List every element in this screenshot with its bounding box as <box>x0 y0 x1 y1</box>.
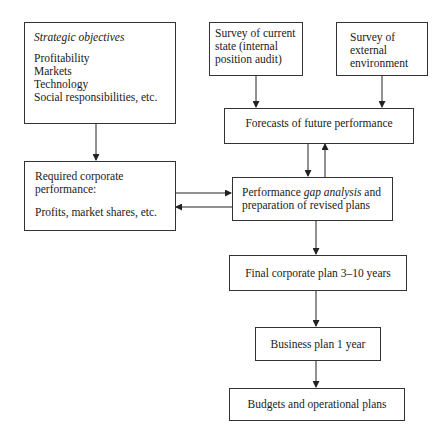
survey-current-state-box: Survey of current state (internal positi… <box>209 22 303 76</box>
objective-item: Technology <box>34 78 166 91</box>
final-plan-label: Final corporate plan 3–10 years <box>245 267 391 280</box>
forecasts-box: Forecasts of future performance <box>224 108 414 144</box>
survey-external-environment-box: Survey of external environment <box>336 22 428 76</box>
strategic-objectives-title: Strategic objectives <box>34 31 166 44</box>
strategic-objectives-box: Strategic objectives Profitability Marke… <box>24 22 176 124</box>
survey-current-line: state (internal <box>215 40 297 53</box>
business-plan-label: Business plan 1 year <box>271 338 366 351</box>
survey-external-line: Survey of <box>350 31 414 44</box>
gap-analysis-box: Performance gap analysis and preparation… <box>232 177 393 221</box>
business-plan-box: Business plan 1 year <box>255 327 381 361</box>
objective-item: Social responsibilities, etc. <box>34 91 166 104</box>
objective-item: Profitability <box>34 52 166 65</box>
forecasts-label: Forecasts of future performance <box>245 117 392 130</box>
budgets-label: Budgets and operational plans <box>248 398 387 411</box>
required-performance-line: performance: <box>35 183 165 196</box>
survey-current-line: position audit) <box>215 53 297 66</box>
budgets-box: Budgets and operational plans <box>229 388 405 421</box>
gap-analysis-line-2: preparation of revised plans <box>242 199 383 212</box>
objective-item: Markets <box>34 65 166 78</box>
required-performance-box: Required corporate performance: Profits,… <box>24 161 176 231</box>
survey-current-line: Survey of current <box>215 27 297 40</box>
required-performance-detail: Profits, market shares, etc. <box>35 206 165 219</box>
required-performance-line: Required corporate <box>35 170 165 183</box>
final-corporate-plan-box: Final corporate plan 3–10 years <box>229 255 407 291</box>
gap-analysis-emphasis: gap analysis <box>304 186 362 198</box>
gap-analysis-line-1: Performance gap analysis and <box>242 186 383 199</box>
survey-external-line: external <box>350 44 414 57</box>
survey-external-line: environment <box>350 57 414 70</box>
